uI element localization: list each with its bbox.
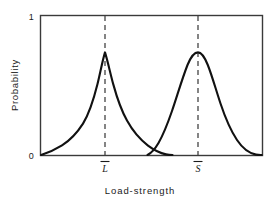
load-distribution-curve (41, 52, 172, 155)
x-tick-label-strength: S (196, 163, 201, 174)
y-axis-title: Probability (9, 59, 20, 111)
x-tick-mean-strength: S (194, 162, 203, 175)
y-tick-label-top: 1 (29, 12, 34, 22)
x-tick-mean-load: L (101, 162, 110, 175)
figure-container: 1 0 L S Load-strength Probability (0, 0, 277, 204)
probability-distribution-chart: 1 0 L S Load-strength Probability (0, 0, 277, 204)
strength-distribution-curve (148, 52, 262, 155)
x-axis-title: Load-strength (105, 185, 175, 196)
x-tick-label-load: L (101, 163, 108, 174)
y-tick-label-bottom: 0 (29, 151, 34, 161)
